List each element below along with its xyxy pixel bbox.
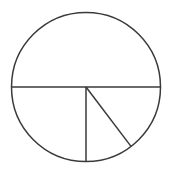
diagonal-radius-line [86, 87, 131, 146]
figure-canvas [0, 0, 170, 178]
circle-sector-diagram [0, 0, 170, 178]
